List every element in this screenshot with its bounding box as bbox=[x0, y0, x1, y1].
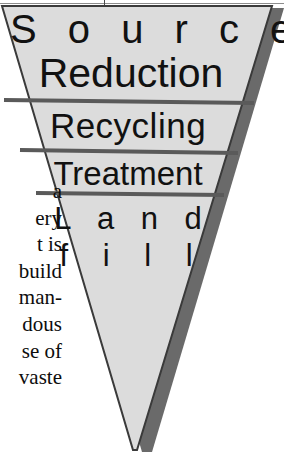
figure-page: S o u r c e Reduction Recycling Treatmen… bbox=[0, 0, 284, 454]
body-text-line: se of bbox=[0, 338, 62, 365]
body-text-line: vaste bbox=[0, 364, 62, 391]
body-text-line: a bbox=[0, 178, 62, 205]
body-text-line: t is bbox=[0, 231, 62, 258]
body-text-line: dous bbox=[0, 311, 62, 338]
body-text-line: build bbox=[0, 258, 62, 285]
tier-label-reduction: Reduction bbox=[0, 53, 262, 94]
tier-label-source: S o u r c e bbox=[0, 9, 284, 49]
divider-treatment-landfill bbox=[36, 193, 224, 195]
body-text-line: ery bbox=[0, 205, 62, 232]
tier-label-recycling: Recycling bbox=[0, 108, 256, 143]
body-text-line: man- bbox=[0, 284, 62, 311]
margin-body-text: a ery t is build man- dous se of vaste bbox=[0, 178, 62, 391]
